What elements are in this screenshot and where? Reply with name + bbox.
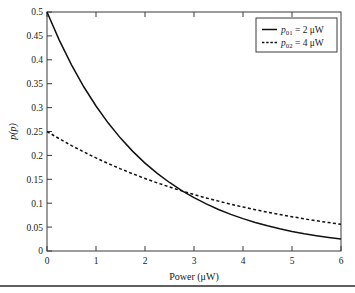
y-axis-tick-labels: 0 0.05 0.1 0.15 0.2 0.25 0.3 0.35 0.4 0.…	[26, 7, 43, 256]
x-tick-label-2: 2	[143, 256, 148, 266]
x-tick-label-3: 3	[192, 256, 197, 266]
y-tick-label-2: 0.1	[31, 199, 43, 209]
y-tick-label-1: 0.05	[26, 223, 43, 233]
y-axis-title: p(p)	[7, 123, 19, 141]
svg-text:p(p): p(p)	[7, 123, 19, 141]
y-tick-label-10: 0.5	[31, 7, 43, 17]
y-axis-title-arg: (p)	[7, 123, 19, 135]
x-tick-label-5: 5	[290, 256, 295, 266]
y-tick-label-8: 0.4	[31, 55, 43, 65]
x-axis-title: Power (μW)	[169, 271, 219, 283]
chart-legend: p01 = 2 μW p02 = 4 μW	[256, 18, 337, 52]
x-tick-label-0: 0	[45, 256, 50, 266]
y-tick-label-6: 0.3	[31, 103, 43, 113]
x-tick-label-4: 4	[241, 256, 246, 266]
y-tick-label-9: 0.45	[26, 31, 43, 41]
y-tick-label-5: 0.25	[26, 127, 43, 137]
x-tick-label-1: 1	[94, 256, 99, 266]
y-tick-label-0: 0	[38, 246, 43, 256]
y-tick-label-7: 0.35	[26, 79, 43, 89]
y-tick-label-3: 0.15	[26, 175, 43, 185]
x-axis-tick-labels: 0 1 2 3 4 5 6	[45, 256, 344, 266]
x-tick-label-6: 6	[339, 256, 344, 266]
y-tick-label-4: 0.2	[31, 151, 43, 161]
exponential-decay-chart: 0 0.05 0.1 0.15 0.2 0.25 0.3 0.35 0.4 0.…	[0, 0, 355, 293]
series-dashed-p02	[47, 132, 341, 225]
figure-container: 0 0.05 0.1 0.15 0.2 0.25 0.3 0.35 0.4 0.…	[0, 0, 355, 293]
